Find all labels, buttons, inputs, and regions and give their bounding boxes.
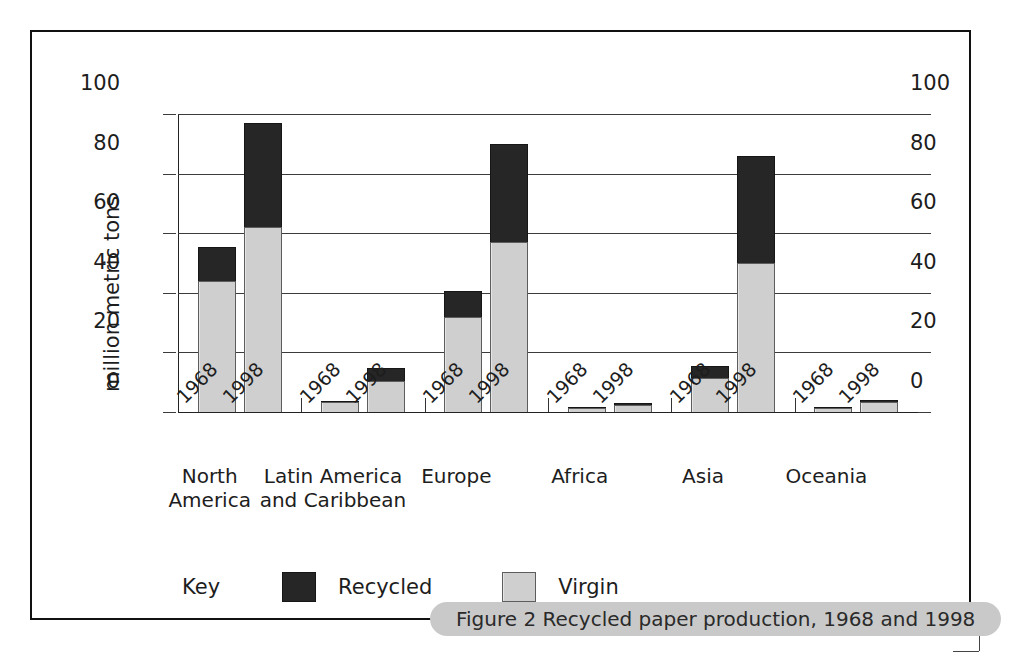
y-tick-right-60 [918, 233, 931, 234]
y-tick-right-20 [918, 352, 931, 353]
y-tick-label-right-20: 20 [910, 311, 937, 332]
y-tick-label-right-0: 0 [910, 371, 923, 392]
y-tick-left-20 [163, 352, 176, 353]
bar-oceania-1998[interactable] [860, 400, 898, 412]
y-tick-right-40 [918, 293, 931, 294]
bar-africa-1998[interactable] [614, 403, 652, 412]
x-group-label-oceania: Oceania [753, 464, 900, 488]
y-tick-label-left-20: 20 [93, 311, 120, 332]
plot-area [178, 114, 918, 412]
gridline-100 [178, 114, 918, 115]
y-tick-left-100 [163, 114, 176, 115]
gridline-40 [178, 293, 918, 294]
y-tick-left-40 [163, 293, 176, 294]
figure-caption: Figure 2 Recycled paper production, 1968… [430, 602, 1001, 636]
y-tick-label-left-100: 100 [80, 73, 120, 94]
legend-label-virgin: Virgin [558, 575, 618, 599]
y-tick-label-left-40: 40 [93, 252, 120, 273]
group-separator-3 [548, 398, 549, 412]
gridline-80 [178, 174, 918, 175]
y-tick-left-0 [163, 412, 176, 413]
gridline-20 [178, 352, 918, 353]
legend-item-recycled: Recycled [282, 572, 432, 602]
y-axis-line [178, 114, 179, 412]
bar-segment-recycled [737, 156, 775, 263]
bar-segment-recycled [444, 291, 482, 316]
legend-swatch-recycled [282, 572, 316, 602]
figure-frame: million metric tons 00202040406060808010… [30, 30, 971, 620]
legend: Key Recycled Virgin [182, 572, 689, 602]
gridline-60 [178, 233, 918, 234]
y-tick-label-left-80: 80 [93, 133, 120, 154]
x-axis-line [178, 412, 918, 413]
bar-segment-recycled [490, 144, 528, 242]
y-tick-right-80 [918, 174, 931, 175]
bar-segment-virgin [614, 405, 652, 412]
y-tick-left-60 [163, 233, 176, 234]
y-tick-label-right-100: 100 [910, 73, 950, 94]
bar-segment-virgin [860, 402, 898, 412]
bar-segment-recycled [198, 247, 236, 281]
legend-label-recycled: Recycled [338, 575, 432, 599]
y-tick-right-100 [918, 114, 931, 115]
bar-africa-1968[interactable] [568, 407, 606, 412]
y-tick-label-left-60: 60 [93, 192, 120, 213]
bar-segment-recycled [244, 123, 282, 227]
legend-item-virgin: Virgin [502, 572, 618, 602]
y-tick-left-80 [163, 174, 176, 175]
bar-oceania-1968[interactable] [814, 407, 852, 412]
legend-key-label: Key [182, 575, 220, 599]
bar-segment-virgin [568, 408, 606, 412]
bar-segment-virgin [814, 408, 852, 412]
y-tick-right-0 [918, 412, 931, 413]
y-tick-label-right-60: 60 [910, 192, 937, 213]
y-tick-label-right-80: 80 [910, 133, 937, 154]
y-tick-label-right-40: 40 [910, 252, 937, 273]
y-tick-label-left-0: 0 [107, 371, 120, 392]
legend-swatch-virgin [502, 572, 536, 602]
